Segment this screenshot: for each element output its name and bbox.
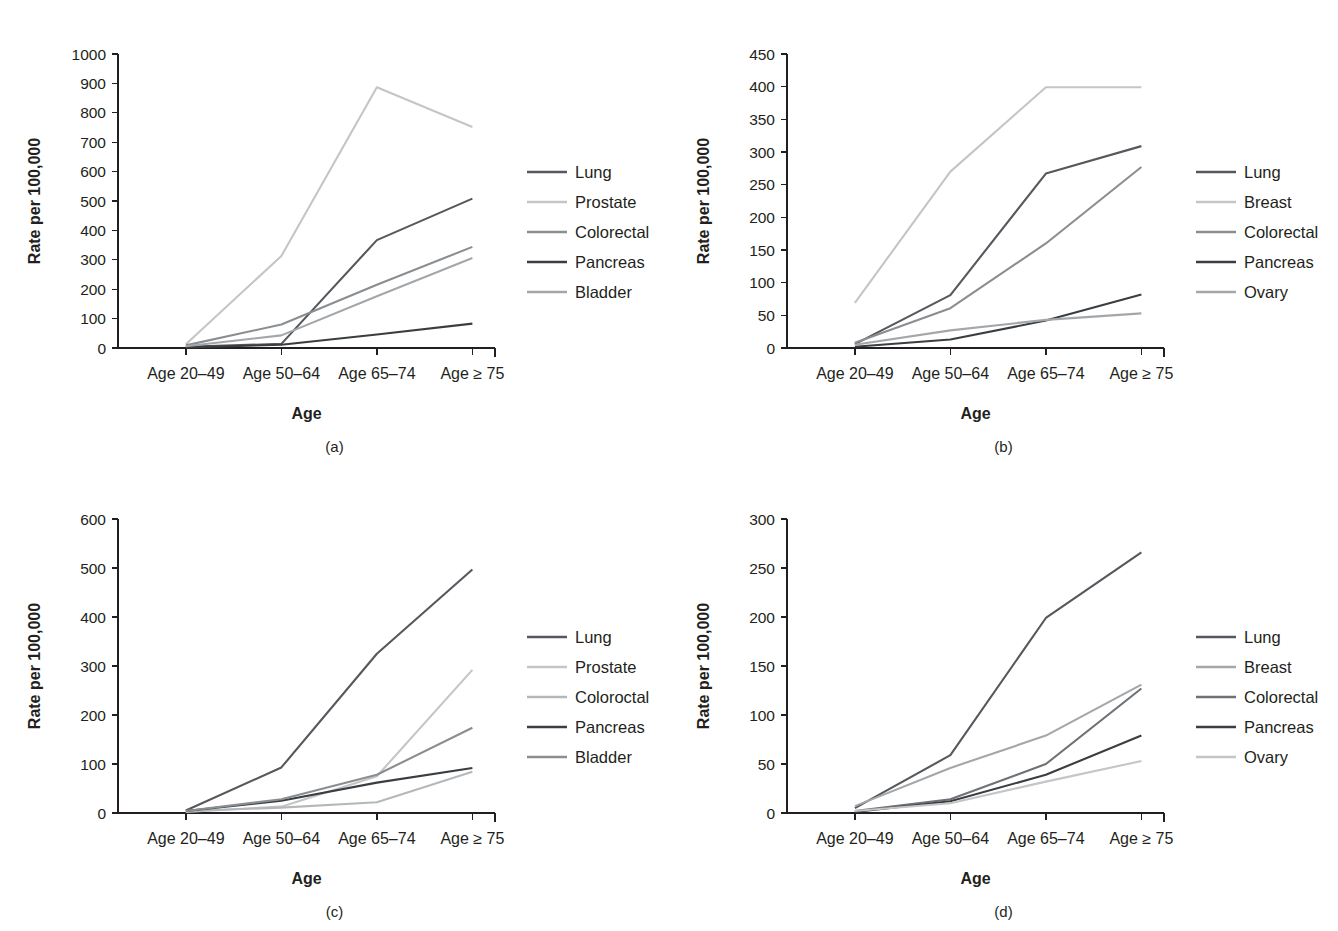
legend-label: Bladder <box>575 748 632 766</box>
legend-item-lung[interactable]: Lung <box>1196 628 1281 646</box>
legend-item-lung[interactable]: Lung <box>527 163 612 181</box>
legend-item-coloroctal[interactable]: Coloroctal <box>527 688 649 706</box>
x-category-label: Age 65–74 <box>338 830 416 847</box>
y-tick-label: 300 <box>80 251 106 268</box>
chart-svg-b: 050100150200250300350400450Age 20–49Age … <box>669 0 1338 465</box>
x-category-label: Age ≥ 75 <box>1109 365 1173 382</box>
y-tick-label: 150 <box>749 658 775 675</box>
legend-item-colorectal[interactable]: Colorectal <box>1196 223 1318 241</box>
y-tick-label: 250 <box>749 176 775 193</box>
legend-item-colorectal[interactable]: Colorectal <box>1196 688 1318 706</box>
legend-label: Colorectal <box>1244 688 1318 706</box>
y-axis-ticks-c: 0100200300400500600 <box>80 511 118 822</box>
x-category-labels-d: Age 20–49Age 50–64Age 65–74Age ≥ 75 <box>816 830 1173 847</box>
legend-item-bladder[interactable]: Bladder <box>527 748 632 766</box>
legend-item-ovary[interactable]: Ovary <box>1196 283 1289 301</box>
x-category-label: Age 65–74 <box>1007 830 1085 847</box>
y-tick-label: 200 <box>80 707 106 724</box>
y-tick-label: 400 <box>80 222 106 239</box>
legend-item-pancreas[interactable]: Pancreas <box>527 253 645 271</box>
x-axis-ticks-c <box>186 813 495 822</box>
y-tick-label: 700 <box>80 134 106 151</box>
legend-item-lung[interactable]: Lung <box>1196 163 1281 181</box>
legend-item-breast[interactable]: Breast <box>1196 193 1292 211</box>
y-tick-label: 400 <box>80 609 106 626</box>
series-line-lung <box>186 199 473 347</box>
x-category-label: Age 20–49 <box>147 365 225 382</box>
x-axis-ticks-a <box>186 348 495 357</box>
y-axis-ticks-d: 050100150200250300 <box>749 511 787 822</box>
x-category-label: Age 50–64 <box>912 365 990 382</box>
legend-label: Ovary <box>1244 748 1289 766</box>
series-line-colorectal <box>186 247 473 345</box>
legend-item-colorectal[interactable]: Colorectal <box>527 223 649 241</box>
x-category-label: Age 20–49 <box>816 365 894 382</box>
y-tick-label: 100 <box>80 310 106 327</box>
legend-label: Bladder <box>575 283 632 301</box>
legend-label: Lung <box>575 628 612 646</box>
x-axis-title: Age <box>291 870 321 887</box>
x-category-labels-a: Age 20–49Age 50–64Age 65–74Age ≥ 75 <box>147 365 504 382</box>
y-axis-title: Rate per 100,000 <box>695 138 712 264</box>
y-tick-label: 50 <box>758 307 776 324</box>
legend-item-pancreas[interactable]: Pancreas <box>1196 253 1314 271</box>
legend-item-pancreas[interactable]: Pancreas <box>1196 718 1314 736</box>
y-tick-label: 800 <box>80 104 106 121</box>
chart-panel-b: 050100150200250300350400450Age 20–49Age … <box>669 0 1338 465</box>
panel-caption-b: (b) <box>669 438 1338 455</box>
x-category-labels-b: Age 20–49Age 50–64Age 65–74Age ≥ 75 <box>816 365 1173 382</box>
series-group-d <box>855 552 1142 812</box>
x-category-labels-c: Age 20–49Age 50–64Age 65–74Age ≥ 75 <box>147 830 504 847</box>
y-tick-label: 400 <box>749 78 775 95</box>
legend-item-lung[interactable]: Lung <box>527 628 612 646</box>
x-category-label: Age ≥ 75 <box>440 830 504 847</box>
y-tick-label: 600 <box>80 511 106 528</box>
legend-label: Colorectal <box>575 223 649 241</box>
legend-b: LungBreastColorectalPancreasOvary <box>1196 163 1318 301</box>
legend-item-prostate[interactable]: Prostate <box>527 658 636 676</box>
y-tick-label: 200 <box>749 609 775 626</box>
x-category-label: Age 20–49 <box>816 830 894 847</box>
y-tick-label: 500 <box>80 193 106 210</box>
legend-item-ovary[interactable]: Ovary <box>1196 748 1289 766</box>
legend-label: Lung <box>1244 628 1281 646</box>
series-line-breast <box>855 87 1142 303</box>
y-tick-label: 900 <box>80 75 106 92</box>
x-axis-title: Age <box>960 870 990 887</box>
y-tick-label: 100 <box>749 707 775 724</box>
series-line-ovary <box>855 761 1142 811</box>
legend-d: LungBreastColorectalPancreasOvary <box>1196 628 1318 766</box>
x-category-label: Age 65–74 <box>338 365 416 382</box>
legend-item-pancreas[interactable]: Pancreas <box>527 718 645 736</box>
y-tick-label: 300 <box>749 511 775 528</box>
legend-label: Breast <box>1244 658 1292 676</box>
x-category-label: Age 50–64 <box>912 830 990 847</box>
legend-item-bladder[interactable]: Bladder <box>527 283 632 301</box>
y-tick-label: 600 <box>80 163 106 180</box>
y-tick-label: 350 <box>749 111 775 128</box>
series-group-c <box>186 569 473 812</box>
panel-caption-c: (c) <box>0 903 669 920</box>
y-tick-label: 200 <box>749 209 775 226</box>
panel-caption-a: (a) <box>0 438 669 455</box>
series-group-b <box>855 87 1142 346</box>
y-axis-title: Rate per 100,000 <box>26 138 43 264</box>
series-group-a <box>186 87 473 347</box>
legend-item-prostate[interactable]: Prostate <box>527 193 636 211</box>
x-category-label: Age 50–64 <box>243 830 321 847</box>
series-line-bladder <box>186 728 473 811</box>
y-tick-label: 300 <box>80 658 106 675</box>
y-tick-label: 0 <box>97 340 106 357</box>
x-axis-title: Age <box>960 405 990 422</box>
legend-label: Lung <box>1244 163 1281 181</box>
y-tick-label: 300 <box>749 144 775 161</box>
legend-item-breast[interactable]: Breast <box>1196 658 1292 676</box>
series-line-pancreas <box>855 736 1142 812</box>
series-line-bladder <box>186 258 473 346</box>
y-tick-label: 100 <box>80 756 106 773</box>
y-tick-label: 150 <box>749 242 775 259</box>
x-axis-title: Age <box>291 405 321 422</box>
y-tick-label: 100 <box>749 274 775 291</box>
chart-panel-c: 0100200300400500600Age 20–49Age 50–64Age… <box>0 465 669 930</box>
legend-label: Pancreas <box>575 718 645 736</box>
